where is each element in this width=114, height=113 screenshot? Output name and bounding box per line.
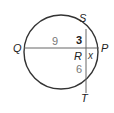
- point-label-s: S: [79, 12, 87, 24]
- circle: [24, 15, 98, 89]
- point-label-t: T: [81, 92, 89, 104]
- chord-diagram: S P Q T R 9 3 x 6: [0, 0, 114, 113]
- point-label-q: Q: [13, 42, 22, 54]
- segment-qr-length: 9: [52, 35, 58, 47]
- point-label-p: P: [101, 42, 109, 54]
- segment-rt-length: 6: [76, 63, 82, 75]
- point-label-r: R: [74, 50, 82, 62]
- segment-rp-length: x: [87, 50, 94, 61]
- segment-sr-length: 3: [76, 34, 82, 46]
